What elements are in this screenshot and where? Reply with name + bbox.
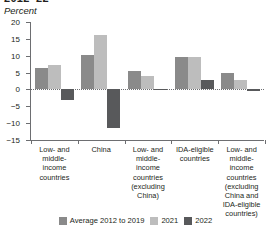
y-axis-tick: 15	[26, 39, 30, 40]
y-axis-tick-label: 0	[16, 85, 20, 94]
bar-group	[78, 22, 125, 140]
y-axis-tick-label: 5	[16, 68, 20, 77]
y-axis-tick: 10	[26, 56, 30, 57]
y-axis-tick-label: −10	[6, 119, 20, 128]
y-axis-tick-label: 10	[11, 51, 20, 60]
chart-figure: 2012–22 Percent 20151050−5−10−15 Low- an…	[0, 0, 271, 228]
legend-item-label: 2022	[195, 216, 212, 225]
bar-2	[188, 57, 201, 90]
legend-item[interactable]: 2021	[150, 216, 178, 225]
bar-1	[221, 73, 234, 90]
x-axis-group-tick	[265, 140, 266, 144]
y-axis-tick-label: 20	[11, 18, 20, 27]
x-axis-category-label: China	[78, 145, 125, 219]
legend-swatch-icon	[59, 217, 67, 225]
bar-group-bars	[171, 22, 218, 140]
x-axis-category-label: Low- and middle-income countries (exclud…	[125, 145, 172, 219]
x-axis-group-tick	[31, 140, 32, 144]
y-axis-tick: 5	[26, 73, 30, 74]
bar-3	[107, 89, 120, 128]
bar-1	[81, 55, 94, 90]
x-axis-category-label: Low- and middle-income countries	[31, 145, 78, 219]
bar-2	[234, 80, 247, 90]
bar-group	[171, 22, 218, 140]
bar-group	[124, 22, 171, 140]
bar-groups	[31, 22, 264, 140]
x-axis-group-tick	[171, 140, 172, 144]
bar-group	[217, 22, 264, 140]
bar-3	[247, 89, 260, 90]
bar-1	[35, 68, 48, 90]
plot-area: 20151050−5−10−15	[30, 22, 264, 140]
x-axis-group-tick	[218, 140, 219, 144]
x-axis-group-tick	[78, 140, 79, 144]
legend-item[interactable]: Average 2012 to 2019	[59, 216, 145, 225]
x-axis-category-labels: Low- and middle-income countriesChinaLow…	[31, 145, 265, 219]
bar-2	[94, 35, 107, 90]
y-axis-tick: 20	[26, 22, 30, 23]
y-axis-tick: −5	[26, 106, 30, 107]
bar-1	[128, 71, 141, 89]
legend-item[interactable]: 2022	[184, 216, 212, 225]
legend-swatch-icon	[150, 217, 158, 225]
legend-swatch-icon	[184, 217, 192, 225]
x-axis-group-tick	[125, 140, 126, 144]
bar-2	[48, 65, 61, 90]
bar-group-bars	[124, 22, 171, 140]
y-axis-unit-label: Percent	[4, 5, 37, 16]
x-axis-category-label: IDA-eligible countries	[171, 145, 218, 219]
bar-group-bars	[31, 22, 78, 140]
y-axis-tick: −10	[26, 123, 30, 124]
bar-group-bars	[78, 22, 125, 140]
y-axis-tick-label: 15	[11, 34, 20, 43]
bar-group	[31, 22, 78, 140]
bar-1	[175, 57, 188, 89]
chart-legend: Average 2012 to 201920212022	[0, 216, 271, 225]
y-axis-tick-label: −5	[11, 102, 20, 111]
bar-2	[141, 76, 154, 89]
chart-title-fragment: 2012–22	[4, 0, 49, 4]
y-axis-tick-label: −15	[6, 136, 20, 145]
x-axis-baseline	[30, 140, 264, 141]
bar-group-bars	[217, 22, 264, 140]
legend-item-label: 2021	[161, 216, 178, 225]
bar-3	[154, 89, 167, 90]
x-axis-category-label: Low- and middle-income countries (exclud…	[218, 145, 265, 219]
bar-3	[201, 80, 214, 89]
bar-3	[61, 89, 74, 99]
legend-item-label: Average 2012 to 2019	[70, 216, 145, 225]
